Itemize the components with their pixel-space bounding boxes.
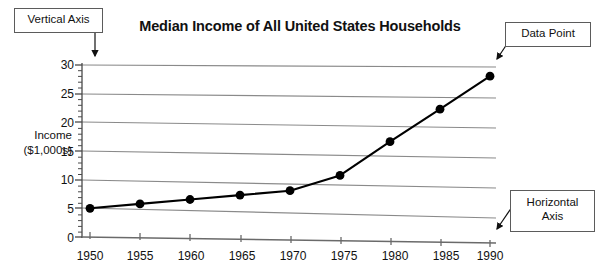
data-point-1960 <box>186 195 195 204</box>
callout-horizontal-axis-line2: Axis <box>516 209 589 223</box>
data-point-1980 <box>386 137 395 146</box>
x-axis-spine <box>82 237 496 243</box>
callout-vertical-axis-label: Vertical Axis <box>20 12 97 26</box>
x-axis <box>82 232 496 247</box>
data-series-markers <box>86 72 495 213</box>
data-point-1985 <box>436 105 445 114</box>
callout-horizontal-axis-line1: Horizontal <box>516 195 589 209</box>
y-axis <box>75 63 82 238</box>
data-point-1955 <box>136 200 145 209</box>
data-point-1970 <box>286 186 295 195</box>
annotation-leaders <box>95 33 512 229</box>
gridline-30 <box>82 65 496 67</box>
callout-horizontal-axis: Horizontal Axis <box>510 190 595 232</box>
data-point-1990 <box>486 72 495 81</box>
callout-data-point-label: Data Point <box>511 26 585 40</box>
data-point-1975 <box>336 171 345 180</box>
gridline-15 <box>82 151 496 158</box>
chart-figure: Median Income of All United States House… <box>0 0 599 274</box>
gridlines <box>82 65 496 218</box>
callout-vertical-axis: Vertical Axis <box>14 8 103 33</box>
gridline-20 <box>82 122 496 128</box>
data-point-1950 <box>86 204 95 213</box>
callout-data-point: Data Point <box>505 22 591 47</box>
data-point-1965 <box>236 191 245 200</box>
gridline-5 <box>82 208 496 218</box>
gridline-25 <box>82 94 496 98</box>
